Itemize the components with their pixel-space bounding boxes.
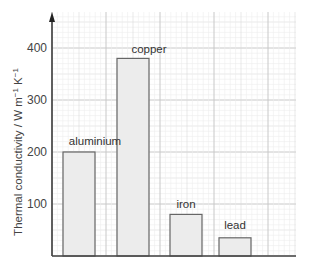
y-tick-300: 300 <box>27 93 47 107</box>
bar-label-copper: copper <box>131 43 166 55</box>
y-tick-400: 400 <box>27 41 47 55</box>
bar-iron <box>170 214 202 256</box>
y-axis-label-mid: K <box>12 77 24 88</box>
bar-label-iron: iron <box>176 198 195 210</box>
y-axis-label-main: Thermal conductivity / W m <box>12 97 24 236</box>
bar-label-aluminium: aluminium <box>69 135 121 147</box>
bar-copper <box>117 58 149 256</box>
y-axis-label: Thermal conductivity / W m−1 K−1 <box>11 68 24 236</box>
bar-lead <box>219 238 251 256</box>
y-tick-100: 100 <box>27 197 47 211</box>
bar-aluminium <box>63 152 95 256</box>
y-axis-label-exp2: −1 <box>11 68 20 78</box>
y-tick-200: 200 <box>27 145 47 159</box>
bar-label-lead: lead <box>224 219 246 231</box>
bar-chart: 100 200 300 400 Thermal conductivity / W… <box>0 0 317 270</box>
